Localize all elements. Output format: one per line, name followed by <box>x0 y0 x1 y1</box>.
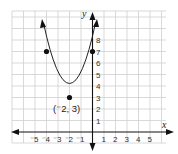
x-tick: ⁻4 <box>42 135 51 144</box>
y-tick: 3 <box>96 94 101 103</box>
x-axis-label: x <box>161 119 167 130</box>
x-axis-right-arrow-icon <box>166 129 174 135</box>
y-tick: 1 <box>96 117 101 126</box>
x-tick: ⁻1 <box>76 135 85 144</box>
y-tick: 2 <box>96 105 101 114</box>
x-tick: 4 <box>136 135 141 144</box>
coordinate-graph: (⁻2, 3) y x ⁻5 ⁻4 ⁻3 ⁻2 ⁻1 1 2 3 4 5 1 2… <box>0 0 178 154</box>
x-tick: 5 <box>148 135 153 144</box>
y-axis-up-arrow-icon <box>90 12 96 20</box>
y-tick-labels: 1 2 3 4 5 6 7 8 <box>96 36 101 126</box>
curve-right-arrow-icon <box>93 19 99 27</box>
point-vertex <box>67 95 72 100</box>
y-tick: 8 <box>96 36 101 45</box>
y-tick: 6 <box>96 59 101 68</box>
grid <box>12 11 166 143</box>
curve-left-arrow-icon <box>40 19 46 28</box>
x-tick: 3 <box>125 135 130 144</box>
x-tick: 2 <box>113 135 118 144</box>
x-tick: 1 <box>102 135 107 144</box>
x-tick: ⁻3 <box>53 135 62 144</box>
y-tick: 4 <box>96 82 101 91</box>
vertex-label: (⁻2, 3) <box>53 103 80 114</box>
y-tick: 7 <box>96 48 101 57</box>
y-axis-label: y <box>81 8 87 19</box>
y-tick: 5 <box>96 71 101 80</box>
point-0-7 <box>90 49 95 54</box>
y-axis-down-arrow-icon <box>90 143 96 151</box>
x-tick: ⁻2 <box>65 135 74 144</box>
x-tick: ⁻5 <box>30 135 39 144</box>
point-neg4-7 <box>44 49 49 54</box>
